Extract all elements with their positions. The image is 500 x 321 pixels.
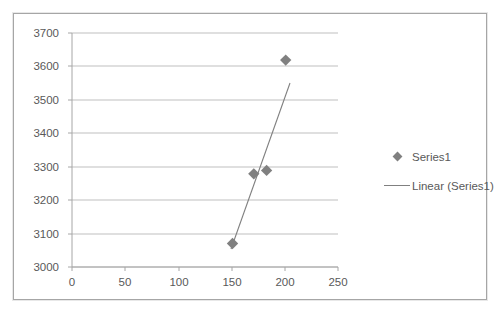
x-tick-label: 200 bbox=[265, 276, 305, 288]
y-tick-label: 3500 bbox=[19, 94, 59, 106]
data-point-marker bbox=[280, 54, 291, 65]
data-point-marker bbox=[261, 165, 272, 176]
legend-label: Series1 bbox=[412, 151, 451, 163]
legend-label: Linear (Series1) bbox=[412, 180, 494, 192]
data-points bbox=[227, 54, 292, 249]
y-tick-label: 3000 bbox=[19, 261, 59, 273]
x-tick-label: 0 bbox=[52, 276, 92, 288]
y-axis-line bbox=[68, 33, 72, 267]
y-tick-label: 3100 bbox=[19, 228, 59, 240]
y-tick-label: 3600 bbox=[19, 60, 59, 72]
gridlines bbox=[72, 33, 338, 267]
data-point-marker bbox=[227, 238, 238, 249]
y-tick-label: 3200 bbox=[19, 194, 59, 206]
x-tick-label: 50 bbox=[105, 276, 145, 288]
y-tick-label: 3300 bbox=[19, 161, 59, 173]
trendline bbox=[231, 83, 290, 249]
x-tick-label: 250 bbox=[318, 276, 358, 288]
chart-frame: 3700 3600 3500 3400 3300 3200 3100 3000 … bbox=[13, 13, 487, 300]
x-tick-label: 150 bbox=[212, 276, 252, 288]
x-axis-line bbox=[72, 267, 338, 271]
x-tick-label: 100 bbox=[159, 276, 199, 288]
data-point-marker bbox=[248, 168, 259, 179]
legend-item-linear-series1: Linear (Series1) bbox=[382, 171, 492, 200]
y-tick-label: 3400 bbox=[19, 127, 59, 139]
y-tick-label: 3700 bbox=[19, 27, 59, 39]
diamond-marker-icon bbox=[382, 153, 412, 160]
line-marker-icon bbox=[382, 185, 412, 186]
chart-legend: Series1 Linear (Series1) bbox=[382, 142, 492, 200]
legend-item-series1: Series1 bbox=[382, 142, 492, 171]
